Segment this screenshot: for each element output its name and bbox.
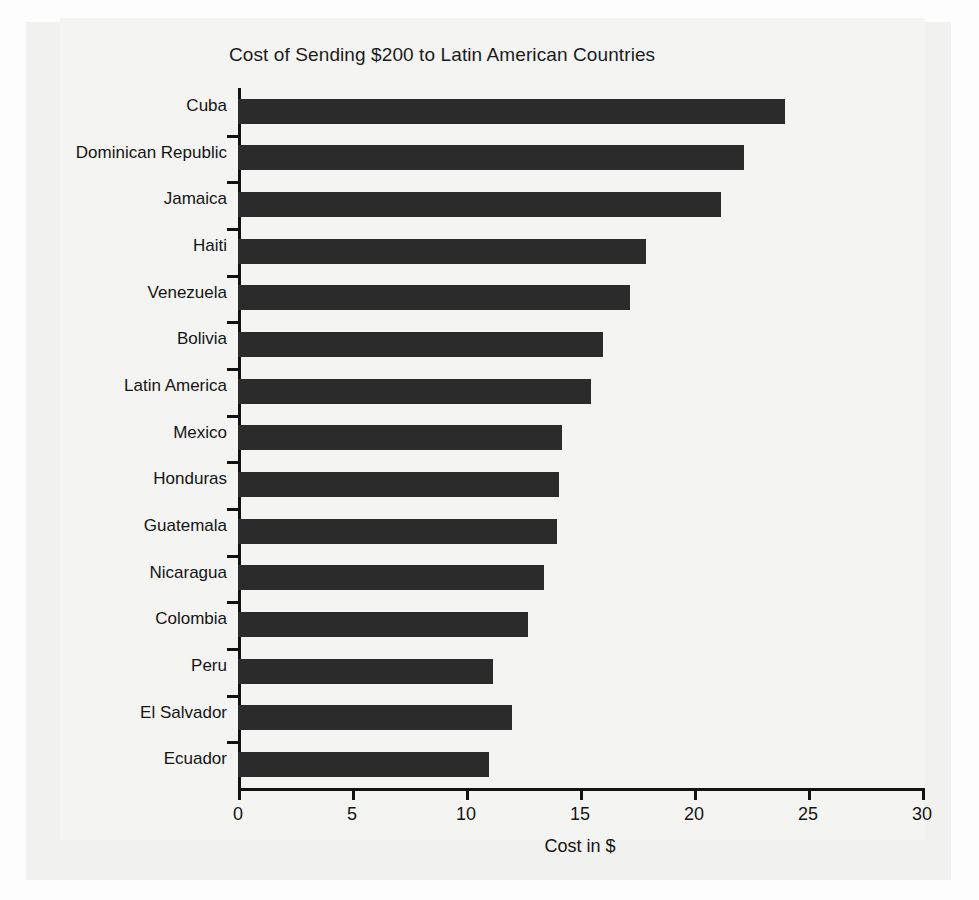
bar-row: Honduras (238, 461, 922, 508)
x-axis-tick (694, 788, 697, 800)
bar-row: Peru (238, 648, 922, 695)
y-axis-tick-label: Colombia (155, 609, 227, 629)
y-axis-tick-label: Bolivia (177, 329, 227, 349)
bar (238, 285, 630, 310)
bar (238, 612, 528, 637)
bar-row: Mexico (238, 415, 922, 462)
chart-title: Cost of Sending $200 to Latin American C… (229, 44, 655, 66)
x-axis-label: Cost in $ (544, 836, 615, 857)
y-axis-tick (227, 648, 238, 651)
y-axis-tick-label: Ecuador (164, 749, 227, 769)
page-root: Cost of Sending $200 to Latin American C… (0, 0, 979, 900)
bar-row: Latin America (238, 368, 922, 415)
y-axis-tick (227, 741, 238, 744)
x-axis-tick (922, 788, 925, 800)
bar-row: Cuba (238, 88, 922, 135)
bar-row: Guatemala (238, 508, 922, 555)
y-axis-tick (227, 508, 238, 511)
y-axis-tick-label: Nicaragua (150, 563, 228, 583)
y-axis-tick (227, 368, 238, 371)
bar (238, 145, 744, 170)
y-axis-tick-label: Venezuela (148, 283, 227, 303)
bar-row: Dominican Republic (238, 135, 922, 182)
y-axis-tick-label: Peru (191, 656, 227, 676)
x-axis-tick (808, 788, 811, 800)
x-axis-tick (466, 788, 469, 800)
x-axis-tick-label: 5 (347, 804, 357, 825)
y-axis-tick-label: Dominican Republic (76, 143, 227, 163)
bar (238, 192, 721, 217)
bar-row: El Salvador (238, 695, 922, 742)
bar-row: Haiti (238, 228, 922, 275)
x-axis-tick (352, 788, 355, 800)
bar (238, 705, 512, 730)
bar-chart-figure: Cost of Sending $200 to Latin American C… (0, 0, 979, 900)
y-axis-tick-label: Honduras (153, 469, 227, 489)
bar (238, 332, 603, 357)
y-axis-tick (227, 695, 238, 698)
y-axis-tick-label: Mexico (173, 423, 227, 443)
bar (238, 659, 493, 684)
y-axis-tick (227, 321, 238, 324)
x-axis-tick-label: 15 (570, 804, 590, 825)
y-axis-tick (227, 135, 238, 138)
bar (238, 425, 562, 450)
x-axis-tick-label: 20 (684, 804, 704, 825)
y-axis-tick-label: Latin America (124, 376, 227, 396)
bar (238, 565, 544, 590)
bar-row: Nicaragua (238, 555, 922, 602)
x-axis-tick (238, 788, 241, 800)
bar (238, 379, 591, 404)
y-axis-tick (227, 275, 238, 278)
y-axis-tick (227, 228, 238, 231)
y-axis-tick-label: El Salvador (140, 703, 227, 723)
bar-row: Jamaica (238, 181, 922, 228)
x-axis-tick-label: 10 (456, 804, 476, 825)
y-axis-tick (227, 181, 238, 184)
y-axis-tick-label: Cuba (186, 96, 227, 116)
y-axis-tick-label: Guatemala (144, 516, 227, 536)
y-axis-tick-label: Jamaica (164, 189, 227, 209)
y-axis-tick-label: Haiti (193, 236, 227, 256)
bar (238, 519, 557, 544)
bar (238, 472, 559, 497)
y-axis-tick (227, 601, 238, 604)
x-axis-tick-label: 25 (798, 804, 818, 825)
y-axis-tick (227, 555, 238, 558)
y-axis-tick (227, 415, 238, 418)
bar-row: Ecuador (238, 741, 922, 788)
y-axis-tick (227, 461, 238, 464)
bar-row: Colombia (238, 601, 922, 648)
x-axis-tick-label: 30 (912, 804, 932, 825)
x-axis-tick (580, 788, 583, 800)
x-axis-tick-label: 0 (233, 804, 243, 825)
plot-area: CubaDominican RepublicJamaicaHaitiVenezu… (238, 88, 922, 788)
bar (238, 752, 489, 777)
bar-row: Bolivia (238, 321, 922, 368)
bar-row: Venezuela (238, 275, 922, 322)
bar (238, 239, 646, 264)
bar (238, 99, 785, 124)
